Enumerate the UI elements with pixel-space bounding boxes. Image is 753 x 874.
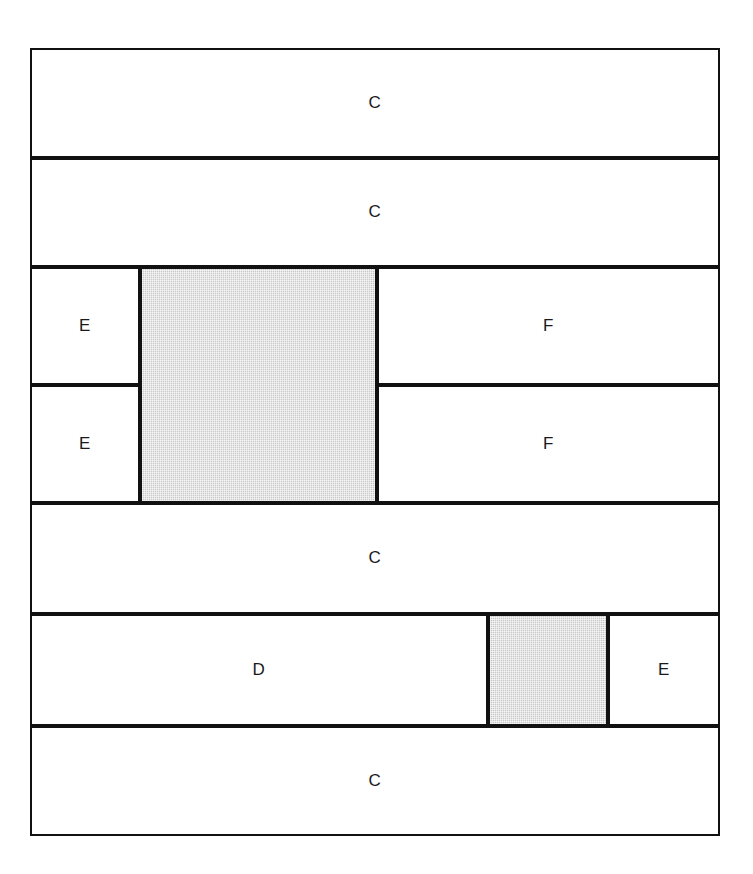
cell-label-e-1: E [79,317,91,334]
cell-c-2[interactable]: C [30,158,720,267]
cell-label-f-2: F [543,435,554,452]
cell-shaded-1[interactable] [140,267,377,503]
cell-label-c-4: C [369,772,382,789]
diagram-canvas: C C E F E F C D E C [0,0,753,874]
cell-label-c-2: C [369,203,382,220]
cell-shaded-2[interactable] [488,614,608,726]
cell-c-1[interactable]: C [30,48,720,158]
cell-label-e-3: E [658,661,670,678]
cell-label-c-1: C [369,94,382,111]
cell-label-c-3: C [369,549,382,566]
cell-f-2[interactable]: F [377,385,720,503]
cell-e-2[interactable]: E [30,385,140,503]
cell-e-1[interactable]: E [30,267,140,385]
cell-e-3[interactable]: E [608,614,720,726]
cell-d-1[interactable]: D [30,614,488,726]
cell-label-f-1: F [543,317,554,334]
cell-label-d-1: D [253,661,266,678]
cell-label-e-2: E [79,435,91,452]
cell-c-4[interactable]: C [30,726,720,836]
cell-f-1[interactable]: F [377,267,720,385]
cell-c-3[interactable]: C [30,503,720,614]
